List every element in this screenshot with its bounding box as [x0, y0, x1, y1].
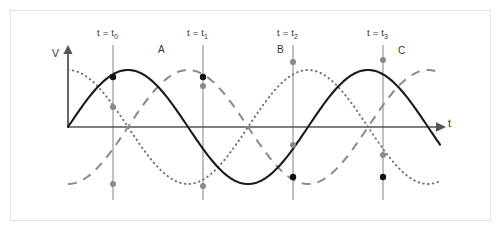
time-marker-label-t2: t = t2	[277, 28, 298, 40]
t-axis-label: t	[448, 118, 451, 129]
plot-canvas	[0, 0, 503, 233]
time-marker-prefix-t0: t = t	[97, 27, 114, 38]
time-marker-sub-t2: 2	[294, 33, 298, 40]
gridline-group	[113, 45, 383, 200]
curve-label-a: A	[158, 45, 165, 55]
data-point-b-5	[200, 83, 206, 89]
data-point-a-0	[110, 74, 116, 80]
time-marker-prefix-t1: t = t	[187, 27, 204, 38]
time-marker-label-t1: t = t1	[187, 28, 208, 40]
time-marker-prefix-t2: t = t	[277, 27, 294, 38]
time-marker-sub-t3: 3	[384, 33, 388, 40]
data-point-c-11	[380, 57, 386, 63]
t-axis-arrowhead	[436, 122, 446, 132]
data-point-b-6	[290, 59, 296, 65]
data-point-a-2	[290, 174, 296, 180]
v-axis-arrowhead	[63, 45, 72, 54]
time-marker-sub-t0: 0	[114, 33, 118, 40]
data-point-c-9	[200, 183, 206, 189]
time-marker-label-t0: t = t0	[97, 28, 118, 40]
data-point-b-7	[380, 152, 386, 158]
curve-label-b: B	[277, 45, 284, 55]
data-point-a-3	[380, 174, 386, 180]
axis-group	[63, 45, 446, 132]
waveform-figure: V t t = t0 t = t1 t = t2 t = t3 A B C	[0, 0, 503, 233]
time-marker-prefix-t3: t = t	[367, 27, 384, 38]
time-marker-label-t3: t = t3	[367, 28, 388, 40]
data-point-a-1	[200, 74, 206, 80]
v-axis-label: V	[52, 48, 59, 59]
data-point-c-10	[290, 142, 296, 148]
data-point-c-8	[110, 104, 116, 110]
marker-group	[110, 57, 386, 189]
time-marker-sub-t1: 1	[204, 33, 208, 40]
curve-label-c: C	[398, 46, 405, 56]
data-point-b-4	[110, 181, 116, 187]
